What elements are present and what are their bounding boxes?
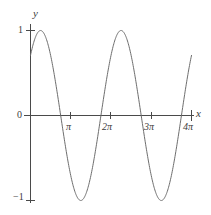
x-axis-label: x [196,108,201,119]
x-tick-label-3pi: 3π [144,122,154,132]
x-tick-label-4pi: 4π [183,122,193,132]
plot-canvas [0,0,211,215]
x-tick-label-pi: π [66,122,71,132]
y-tick-label-1: 1 [18,25,23,35]
y-tick-label-0: 0 [17,110,22,120]
trigonometric-graph-figure: y x 1 0 −1 π 2π 3π 4π [0,0,211,215]
y-tick-label-minus-1: −1 [13,192,24,202]
x-tick-label-2pi: 2π [102,122,112,132]
y-axis-label: y [33,8,38,19]
